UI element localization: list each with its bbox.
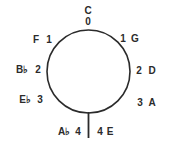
label-flat-1-count: 1 [46, 34, 52, 45]
circle-of-fifths-diagram: C 0 F 1 B♭ 2 E♭ 3 A♭ 4 1 G 2 D 3 A 4 E [0, 0, 171, 145]
label-flat-2-note: B♭ [16, 64, 28, 75]
label-flat-4-count: 4 [75, 126, 81, 137]
circle-of-fifths-svg: C 0 F 1 B♭ 2 E♭ 3 A♭ 4 1 G 2 D 3 A 4 E [0, 0, 171, 145]
label-sharp-2-count: 2 [136, 65, 142, 76]
label-sharp-3-note: A [148, 97, 155, 108]
label-sharp-1-count: 1 [120, 33, 126, 44]
label-flat-4-note: A♭ [58, 126, 70, 137]
label-sharp-2-note: D [148, 65, 155, 76]
label-flat-2-count: 2 [35, 64, 41, 75]
label-top-note: C [84, 5, 91, 16]
label-sharp-4-note: E [107, 126, 114, 137]
label-flat-1-note: F [33, 34, 39, 45]
circle-outline [47, 30, 130, 113]
label-flat-3-count: 3 [37, 94, 43, 105]
label-sharp-4-count: 4 [97, 126, 103, 137]
label-flat-3-note: E♭ [19, 94, 31, 105]
label-sharp-1-note: G [131, 33, 139, 44]
label-sharp-3-count: 3 [137, 97, 143, 108]
label-top-count: 0 [85, 16, 91, 27]
